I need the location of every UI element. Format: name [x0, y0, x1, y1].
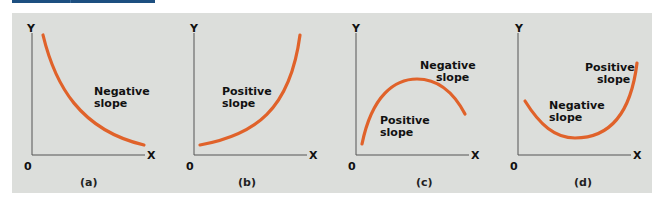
origin-label-c: 0 [348, 160, 356, 173]
origin-label-a: 0 [24, 160, 32, 173]
label-negative-slope-c-line2: slope [436, 71, 469, 84]
graph-b: Y X 0 Positive slope (b) [186, 22, 318, 189]
x-axis-label-a: X [147, 149, 156, 162]
label-negative-slope-d-line2: slope [549, 111, 582, 124]
graph-a: Y X 0 Negative slope (a) [24, 22, 156, 189]
y-axis-label-b: Y [189, 22, 199, 35]
graph-c: Y X 0 Negative slope Positive slope (c) [348, 22, 480, 189]
label-positive-slope-c-line2: slope [380, 126, 413, 139]
x-axis-label-c: X [471, 149, 480, 162]
y-axis-label-c: Y [351, 22, 361, 35]
y-axis-label-a: Y [26, 22, 36, 35]
graph-d: Y X 0 Positive slope Negative slope (d) [510, 22, 642, 189]
caption-b: (b) [238, 176, 256, 189]
caption-a: (a) [80, 176, 97, 189]
label-positive-slope-b-line2: slope [222, 97, 255, 110]
y-axis-label-d: Y [514, 22, 524, 35]
x-axis-label-b: X [309, 149, 318, 162]
curve-c [362, 79, 465, 144]
caption-c: (c) [416, 176, 433, 189]
caption-d: (d) [574, 176, 592, 189]
x-axis-label-d: X [633, 149, 642, 162]
label-positive-slope-d-line2: slope [597, 73, 630, 86]
slope-figure: Y X 0 Negative slope (a) Y X 0 Positive … [0, 0, 659, 199]
origin-label-d: 0 [510, 160, 518, 173]
origin-label-b: 0 [186, 160, 194, 173]
label-negative-slope-a-line2: slope [94, 97, 127, 110]
